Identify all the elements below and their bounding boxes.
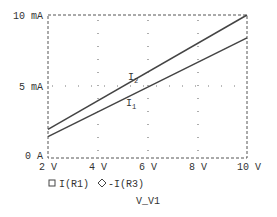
x-tick-10v: 10 V: [237, 162, 261, 173]
legend-i-r3: -I(R3): [108, 179, 144, 190]
legend-i-r1: I(R1): [59, 179, 89, 190]
series-i-r1-line: [48, 38, 247, 137]
x-tick-4v: 4 V: [89, 162, 107, 173]
chart: I2 I1 10 mA 5 mA 0 A 2 V 4 V 6 V 8 V 10 …: [0, 0, 277, 217]
x-tick-6v: 6 V: [139, 162, 157, 173]
grid: [52, 20, 247, 158]
y-tick-10ma: 10 mA: [13, 11, 43, 22]
annotation-i1: I1: [126, 98, 136, 111]
x-tick-8v: 8 V: [189, 162, 207, 173]
y-tick-5ma: 5 mA: [19, 82, 43, 93]
series-i-r3-line: [48, 15, 247, 129]
y-tick-0a: 0 A: [25, 151, 43, 162]
diamond-marker-icon: [98, 179, 106, 187]
square-marker-icon: [49, 180, 55, 186]
x-axis-title: V_V1: [136, 196, 160, 207]
x-tick-2v: 2 V: [39, 162, 57, 173]
